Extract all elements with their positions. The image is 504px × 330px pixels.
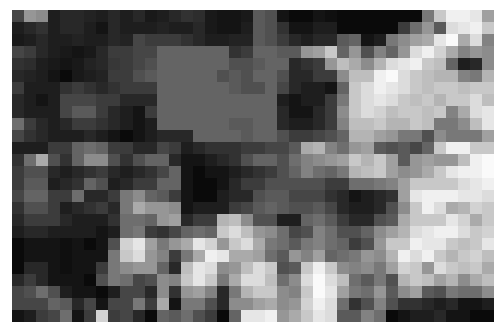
mosaic-tile xyxy=(120,106,132,118)
mosaic-tile xyxy=(253,142,265,154)
mosaic-tile xyxy=(313,178,325,190)
mosaic-tile xyxy=(446,274,458,286)
mosaic-tile xyxy=(325,10,337,22)
mosaic-tile xyxy=(145,58,157,70)
mosaic-tile xyxy=(24,178,36,190)
mosaic-tile xyxy=(24,46,36,58)
mosaic-tile xyxy=(36,58,48,70)
mosaic-tile xyxy=(108,214,120,226)
mosaic-tile xyxy=(434,106,446,118)
mosaic-tile xyxy=(349,190,361,202)
mosaic-tile xyxy=(386,10,398,22)
mosaic-tile xyxy=(313,34,325,46)
mosaic-tile xyxy=(60,130,72,142)
mosaic-tile xyxy=(482,142,494,154)
mosaic-tile xyxy=(241,142,253,154)
mosaic-tile xyxy=(108,154,120,166)
mosaic-tile xyxy=(398,118,410,130)
mosaic-tile xyxy=(289,310,301,322)
mosaic-tile xyxy=(48,190,60,202)
mosaic-tile xyxy=(181,226,193,238)
mosaic-tile xyxy=(313,250,325,262)
mosaic-tile xyxy=(337,178,349,190)
mosaic-tile xyxy=(289,178,301,190)
mosaic-tile xyxy=(241,286,253,298)
mosaic-tile xyxy=(193,286,205,298)
mosaic-tile xyxy=(60,106,72,118)
mosaic-tile xyxy=(374,34,386,46)
mosaic-tile xyxy=(374,238,386,250)
mosaic-tile xyxy=(72,178,84,190)
mosaic-tile xyxy=(193,274,205,286)
mosaic-tile xyxy=(145,262,157,274)
mosaic-tile xyxy=(458,238,470,250)
mosaic-tile xyxy=(217,46,229,58)
mosaic-tile xyxy=(72,202,84,214)
mosaic-tile xyxy=(313,142,325,154)
mosaic-tile xyxy=(361,46,373,58)
mosaic-tile xyxy=(169,94,181,106)
mosaic-tile xyxy=(205,106,217,118)
mosaic-tile xyxy=(422,154,434,166)
mosaic-tile xyxy=(169,262,181,274)
mosaic-tile xyxy=(337,130,349,142)
mosaic-tile xyxy=(398,142,410,154)
mosaic-tile xyxy=(12,262,24,274)
mosaic-tile xyxy=(133,106,145,118)
mosaic-tile xyxy=(277,250,289,262)
mosaic-tile xyxy=(277,226,289,238)
mosaic-tile xyxy=(277,142,289,154)
mosaic-tile xyxy=(458,250,470,262)
mosaic-tile xyxy=(458,34,470,46)
mosaic-tile xyxy=(410,238,422,250)
mosaic-tile xyxy=(193,166,205,178)
mosaic-tile xyxy=(229,250,241,262)
mosaic-tile xyxy=(337,262,349,274)
mosaic-tile xyxy=(482,238,494,250)
mosaic-tile xyxy=(277,10,289,22)
mosaic-tile xyxy=(482,22,494,34)
mosaic-tile xyxy=(265,142,277,154)
mosaic-tile xyxy=(386,46,398,58)
mosaic-tile xyxy=(313,70,325,82)
mosaic-tile xyxy=(36,34,48,46)
mosaic-tile xyxy=(482,118,494,130)
mosaic-tile xyxy=(398,130,410,142)
mosaic-tile xyxy=(386,274,398,286)
mosaic-tile xyxy=(349,70,361,82)
mosaic-tile xyxy=(265,34,277,46)
mosaic-tile xyxy=(434,34,446,46)
mosaic-tile xyxy=(337,10,349,22)
mosaic-tile xyxy=(482,226,494,238)
mosaic-tile xyxy=(36,238,48,250)
mosaic-tile xyxy=(434,226,446,238)
mosaic-tile xyxy=(157,226,169,238)
mosaic-tile xyxy=(313,274,325,286)
mosaic-tile xyxy=(458,214,470,226)
mosaic-tile xyxy=(120,166,132,178)
mosaic-tile xyxy=(181,142,193,154)
mosaic-tile xyxy=(253,22,265,34)
mosaic-tile xyxy=(470,202,482,214)
mosaic-tile xyxy=(84,190,96,202)
mosaic-tile xyxy=(60,94,72,106)
mosaic-tile xyxy=(205,202,217,214)
mosaic-tile xyxy=(181,82,193,94)
mosaic-tile xyxy=(277,274,289,286)
mosaic-tile xyxy=(422,46,434,58)
mosaic-tile xyxy=(337,154,349,166)
mosaic-tile xyxy=(133,286,145,298)
mosaic-tile xyxy=(434,286,446,298)
mosaic-tile xyxy=(241,58,253,70)
mosaic-tile xyxy=(482,202,494,214)
mosaic-tile xyxy=(277,238,289,250)
mosaic-tile xyxy=(253,10,265,22)
mosaic-tile xyxy=(277,34,289,46)
mosaic-tile xyxy=(458,106,470,118)
mosaic-tile xyxy=(458,10,470,22)
mosaic-tile xyxy=(72,130,84,142)
mosaic-tile xyxy=(301,310,313,322)
mosaic-tile xyxy=(217,190,229,202)
mosaic-tile xyxy=(470,22,482,34)
mosaic-tile xyxy=(120,202,132,214)
